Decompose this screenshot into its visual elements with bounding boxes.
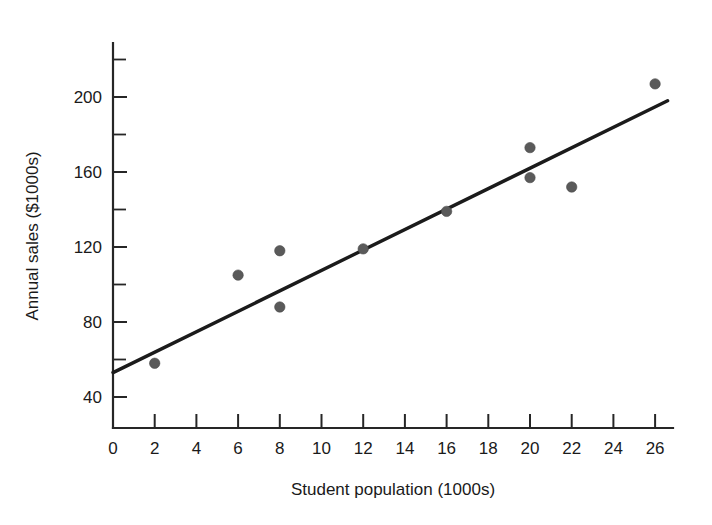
x-tick-label: 8 (275, 439, 284, 458)
x-axis-tick-labels: 02468101214161820222426 (108, 439, 664, 458)
y-tick-label: 120 (74, 238, 102, 257)
data-point (441, 206, 451, 216)
data-point (233, 270, 243, 280)
data-point (275, 302, 285, 312)
y-axis-tick-labels: 4080120160200 (74, 88, 102, 407)
x-tick-label: 10 (312, 439, 331, 458)
x-tick-label: 20 (521, 439, 540, 458)
data-point (567, 182, 577, 192)
data-points-group (150, 79, 661, 369)
x-tick-label: 4 (192, 439, 201, 458)
x-tick-label: 18 (479, 439, 498, 458)
data-point (150, 358, 160, 368)
chart-canvas: 4080120160200 02468101214161820222426 St… (0, 0, 712, 525)
y-axis-title: Annual sales ($1000s) (23, 151, 42, 320)
x-tick-label: 0 (108, 439, 117, 458)
x-tick-label: 26 (646, 439, 665, 458)
x-tick-label: 14 (395, 439, 414, 458)
data-point (525, 142, 535, 152)
data-point (650, 79, 660, 89)
y-tick-label: 80 (83, 313, 102, 332)
y-tick-label: 160 (74, 163, 102, 182)
x-tick-label: 16 (437, 439, 456, 458)
x-axis-ticks (155, 414, 655, 428)
x-axis-title: Student population (1000s) (291, 480, 495, 499)
scatter-plot-figure: 4080120160200 02468101214161820222426 St… (0, 0, 712, 525)
x-tick-label: 12 (354, 439, 373, 458)
regression-line (113, 101, 668, 373)
y-axis-ticks (113, 60, 127, 398)
y-tick-label: 40 (83, 388, 102, 407)
x-tick-label: 24 (604, 439, 623, 458)
data-point (525, 172, 535, 182)
data-point (275, 246, 285, 256)
x-tick-label: 6 (233, 439, 242, 458)
y-tick-label: 200 (74, 88, 102, 107)
x-tick-label: 22 (562, 439, 581, 458)
data-point (358, 244, 368, 254)
x-tick-label: 2 (150, 439, 159, 458)
